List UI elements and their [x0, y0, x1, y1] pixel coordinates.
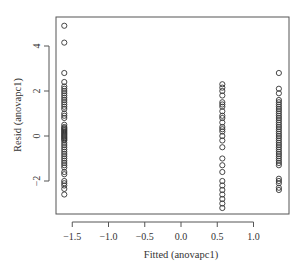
data-point	[220, 163, 225, 168]
x-tick-label: 0.5	[211, 231, 224, 242]
y-tick-label: 4	[31, 44, 42, 49]
x-tick-label: 1.0	[247, 231, 260, 242]
plot-frame	[56, 17, 289, 214]
x-tick-label: −1.0	[99, 231, 117, 242]
x-tick-label: −1.5	[63, 231, 81, 242]
data-point	[276, 70, 281, 75]
data-points	[62, 23, 282, 210]
x-axis-title: Fitted (anovapc1)	[144, 249, 219, 261]
data-point	[62, 192, 67, 197]
data-point	[220, 156, 225, 161]
x-tick-label: −0.5	[136, 231, 154, 242]
data-point	[62, 23, 67, 28]
y-tick-label: 0	[31, 134, 42, 139]
y-axis-title: Resid (anovapc1)	[12, 78, 24, 152]
data-point	[220, 145, 225, 150]
y-tick-label: 2	[31, 89, 42, 94]
y-axis: −2024	[31, 44, 49, 187]
data-point	[62, 40, 67, 45]
residual-plot: −1.5−1.0−0.50.00.51.0 −2024 Fitted (anov…	[0, 0, 305, 271]
data-point	[220, 169, 225, 174]
x-tick-label: 0.0	[175, 231, 188, 242]
data-point	[62, 186, 67, 191]
x-axis: −1.5−1.0−0.50.00.51.0	[63, 222, 260, 242]
y-tick-label: −2	[31, 176, 42, 187]
data-point	[62, 70, 67, 75]
